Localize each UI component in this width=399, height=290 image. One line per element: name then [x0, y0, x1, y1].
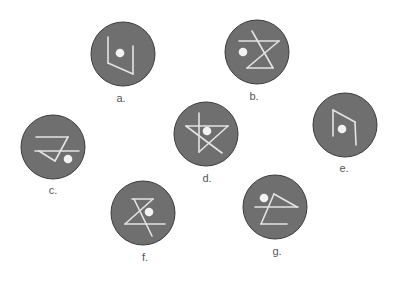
symbol-label-e: e. — [339, 162, 348, 174]
symbol-disc-a — [91, 22, 155, 86]
dot-icon — [145, 208, 154, 217]
dot-icon — [64, 155, 73, 164]
symbol-disc-e — [313, 93, 377, 157]
disc-background — [111, 181, 175, 245]
disc-background — [313, 93, 377, 157]
symbol-label-c: c. — [49, 184, 58, 196]
symbol-figure — [0, 0, 399, 290]
dot-icon — [260, 194, 269, 203]
symbol-disc-b — [225, 20, 289, 84]
dot-icon — [203, 127, 212, 136]
symbol-disc-d — [174, 102, 238, 166]
symbols-canvas — [0, 0, 399, 290]
symbol-label-g: g. — [272, 245, 281, 257]
dot-icon — [116, 49, 125, 58]
glyph-stroke — [355, 122, 356, 145]
symbol-label-f: f. — [142, 251, 148, 263]
symbol-disc-c — [21, 115, 85, 179]
dot-icon — [338, 125, 347, 134]
symbol-label-b: b. — [249, 90, 258, 102]
symbol-label-d: d. — [202, 172, 211, 184]
symbol-disc-g — [243, 175, 307, 239]
dot-icon — [239, 48, 248, 57]
disc-background — [225, 20, 289, 84]
symbol-label-a: a. — [116, 92, 125, 104]
symbol-disc-f — [111, 181, 175, 245]
disc-background — [21, 115, 85, 179]
